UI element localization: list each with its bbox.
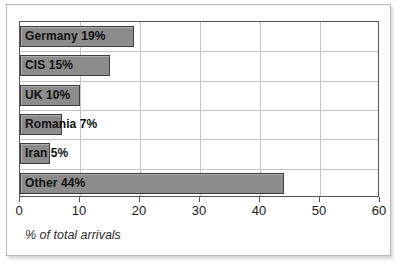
bar-row: Germany 19% xyxy=(20,22,378,51)
x-tick-label: 60 xyxy=(359,203,399,218)
bar-row: Romania 7% xyxy=(20,110,378,139)
x-tick-label: 30 xyxy=(179,203,219,218)
x-tick-mark xyxy=(139,197,140,202)
bar-label-germany: Germany 19% xyxy=(25,26,105,47)
bar-label-iran: Iran 5% xyxy=(25,143,68,164)
bar-label-cis: CIS 15% xyxy=(25,55,73,76)
bar-row: UK 10% xyxy=(20,81,378,110)
bar-row: Iran 5% xyxy=(20,139,378,168)
x-tick-mark xyxy=(259,197,260,202)
x-tick-mark xyxy=(319,197,320,202)
x-tick-mark xyxy=(379,197,380,202)
bar-label-uk: UK 10% xyxy=(25,85,70,106)
x-axis-caption: % of total arrivals xyxy=(25,228,121,242)
x-tick-label: 0 xyxy=(0,203,39,218)
chart-frame: Germany 19%CIS 15%UK 10%Romania 7%Iran 5… xyxy=(6,4,391,256)
x-tick-label: 40 xyxy=(239,203,279,218)
x-tick-label: 20 xyxy=(119,203,159,218)
bar-label-romania: Romania 7% xyxy=(25,114,97,135)
bar-label-other: Other 44% xyxy=(25,173,85,194)
x-tick-label: 10 xyxy=(59,203,99,218)
x-tick-label: 50 xyxy=(299,203,339,218)
x-tick-mark xyxy=(199,197,200,202)
bar-row: Other 44% xyxy=(20,169,378,198)
bar-row: CIS 15% xyxy=(20,51,378,80)
x-tick-mark xyxy=(79,197,80,202)
x-tick-mark xyxy=(19,197,20,202)
plot-area: Germany 19%CIS 15%UK 10%Romania 7%Iran 5… xyxy=(19,21,379,197)
